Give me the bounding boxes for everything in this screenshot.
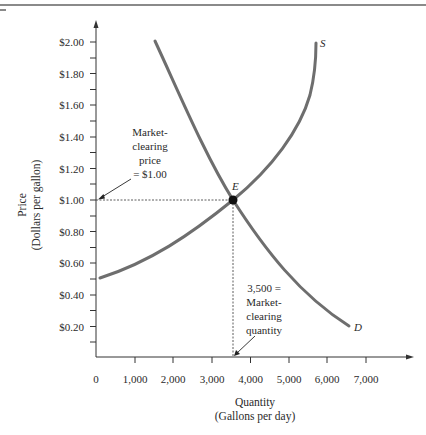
supply-label: S xyxy=(320,37,326,49)
qty-note-line: quantity xyxy=(246,324,283,336)
x-tick-label: 3,000 xyxy=(200,373,225,385)
price-arrowhead-icon xyxy=(98,194,105,200)
y-tick-label: $0.40 xyxy=(59,289,84,301)
qty-note-line: clearing xyxy=(246,310,282,322)
top-rule xyxy=(0,4,426,6)
x-tick-labels: 0 1,000 2,000 3,000 4,000 5,000 6,000 7,… xyxy=(93,373,379,385)
price-note-line: clearing xyxy=(132,140,168,152)
axes xyxy=(94,20,415,360)
demand-label: D xyxy=(353,321,362,333)
price-note-line: price xyxy=(139,154,161,166)
y-axis-sublabel: (Dollars per gallon) xyxy=(30,159,43,250)
y-tick-label: $2.00 xyxy=(59,36,84,48)
price-annotation: Market- clearing price = $1.00 xyxy=(98,126,168,200)
y-tick-label: $1.80 xyxy=(59,68,84,80)
x-axis-arrow-icon xyxy=(406,355,414,360)
x-tick-label: 7,000 xyxy=(354,373,379,385)
price-note-line: = $1.00 xyxy=(133,168,167,180)
supply-curve xyxy=(100,43,316,278)
x-tick-label: 2,000 xyxy=(161,373,186,385)
y-tick-label: $0.60 xyxy=(59,257,84,269)
y-tick-label: $1.40 xyxy=(59,131,84,143)
qty-note-line: Market- xyxy=(246,296,282,308)
y-ticks xyxy=(90,42,96,342)
x-tick-label: 0 xyxy=(93,373,99,385)
y-tick-label: $1.20 xyxy=(59,163,84,175)
price-arrow xyxy=(102,179,131,197)
x-axis-label: Quantity xyxy=(235,396,275,409)
y-axis-title: Price (Dollars per gallon) xyxy=(16,159,43,250)
y-tick-label: $1.00 xyxy=(59,194,84,206)
x-ticks xyxy=(135,357,366,363)
equilibrium-point xyxy=(229,196,238,205)
x-tick-label: 5,000 xyxy=(277,373,302,385)
y-tick-labels: $2.00 $1.80 $1.60 $1.40 $1.20 $1.00 $0.8… xyxy=(59,36,84,333)
y-tick-label: $0.20 xyxy=(59,321,84,333)
supply-demand-chart: $2.00 $1.80 $1.60 $1.40 $1.20 $1.00 $0.8… xyxy=(0,0,426,435)
quantity-annotation: 3,500 = Market- clearing quantity xyxy=(234,282,283,356)
qty-note-line: 3,500 = xyxy=(247,282,281,294)
x-axis-sublabel: (Gallons per day) xyxy=(215,410,296,423)
y-axis-arrow-icon xyxy=(94,20,99,28)
x-tick-label: 1,000 xyxy=(123,373,148,385)
y-tick-label: $1.60 xyxy=(59,99,84,111)
x-tick-label: 4,000 xyxy=(238,373,263,385)
price-note-line: Market- xyxy=(132,126,168,138)
y-axis-label: Price xyxy=(16,193,28,217)
corner-mark xyxy=(0,9,6,11)
equilibrium-label: E xyxy=(231,180,239,192)
y-tick-label: $0.80 xyxy=(59,226,84,238)
x-tick-label: 6,000 xyxy=(315,373,340,385)
quantity-arrow xyxy=(237,336,255,353)
